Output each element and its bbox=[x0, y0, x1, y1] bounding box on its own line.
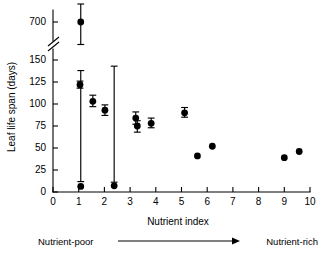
x-tick-label-2: 2 bbox=[102, 196, 108, 207]
y-tick-label-50: 50 bbox=[35, 142, 47, 153]
x-tick-label-9: 9 bbox=[282, 196, 288, 207]
x-tick-label-4: 4 bbox=[153, 196, 159, 207]
x-tick-label-1: 1 bbox=[76, 196, 82, 207]
annotation-nutrient-poor: Nutrient-poor bbox=[38, 236, 93, 247]
x-axis-title: Nutrient index bbox=[147, 216, 209, 227]
y-axis-title: Leaf life span (days) bbox=[6, 62, 17, 152]
data-point bbox=[281, 154, 288, 161]
y-tick-label-700: 700 bbox=[29, 16, 46, 27]
error-bars-layer bbox=[77, 4, 188, 182]
y-tick-label-150: 150 bbox=[29, 54, 46, 65]
data-point bbox=[296, 148, 303, 155]
y-tick-label-100: 100 bbox=[29, 98, 46, 109]
data-point bbox=[209, 143, 216, 150]
x-tick-label-3: 3 bbox=[127, 196, 133, 207]
x-tick-label-0: 0 bbox=[50, 196, 56, 207]
x-tick-label-7: 7 bbox=[230, 196, 236, 207]
y-tick-label-0: 0 bbox=[40, 186, 46, 197]
data-points-layer bbox=[77, 19, 303, 190]
x-tick-label-5: 5 bbox=[179, 196, 185, 207]
data-point bbox=[134, 123, 141, 130]
figure-leaf-life-span-vs-nutrient-index: Leaf life span (days) 025507510012515070… bbox=[0, 0, 329, 253]
data-point bbox=[89, 98, 96, 105]
data-point bbox=[102, 107, 109, 114]
data-point bbox=[181, 109, 188, 116]
scatter-plot-canvas: Leaf life span (days) 025507510012515070… bbox=[0, 0, 329, 253]
x-tick-label-10: 10 bbox=[304, 196, 316, 207]
x-axis-ticks: 012345678910 bbox=[50, 187, 316, 207]
data-point bbox=[77, 81, 84, 88]
annotation-nutrient-rich: Nutrient-rich bbox=[266, 236, 318, 247]
error-bar bbox=[111, 66, 118, 182]
y-axis-ticks: 0255075100125150700 bbox=[29, 16, 58, 197]
y-tick-label-125: 125 bbox=[29, 76, 46, 87]
data-point bbox=[77, 19, 84, 26]
data-point bbox=[77, 183, 84, 190]
data-point bbox=[194, 153, 201, 160]
data-point bbox=[148, 120, 155, 127]
data-point bbox=[132, 115, 139, 122]
x-tick-label-8: 8 bbox=[256, 196, 262, 207]
gradient-arrow-icon bbox=[118, 238, 240, 245]
x-tick-label-6: 6 bbox=[204, 196, 210, 207]
data-point bbox=[111, 182, 118, 189]
y-tick-label-25: 25 bbox=[35, 164, 47, 175]
y-tick-label-75: 75 bbox=[35, 120, 47, 131]
